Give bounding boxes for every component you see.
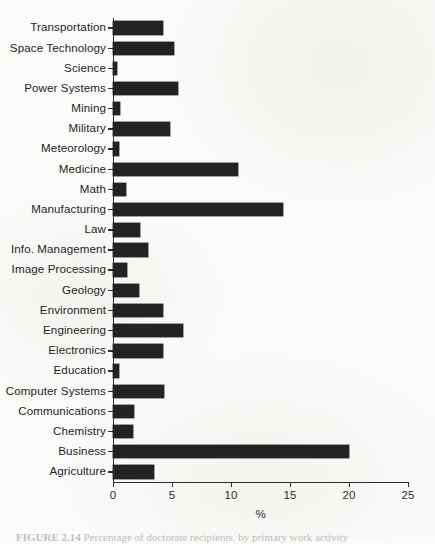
category-label: Chemistry bbox=[53, 424, 106, 438]
bar bbox=[113, 82, 178, 95]
category-label: Mining bbox=[71, 101, 106, 115]
chart-row: Engineering bbox=[113, 321, 408, 341]
x-axis-tick-label: 20 bbox=[342, 489, 355, 501]
category-label: Info. Management bbox=[11, 242, 106, 256]
category-label: Electronics bbox=[48, 343, 106, 357]
bar bbox=[113, 445, 349, 458]
x-axis-tick-label: 25 bbox=[401, 489, 414, 501]
chart-row: Medicine bbox=[113, 159, 408, 179]
chart-row: Electronics bbox=[113, 341, 408, 361]
category-label: Math bbox=[80, 182, 106, 196]
category-label: Education bbox=[54, 363, 106, 377]
bar bbox=[113, 122, 170, 135]
chart-row: Business bbox=[113, 442, 408, 462]
bar bbox=[113, 223, 140, 236]
chart-row: Environment bbox=[113, 300, 408, 320]
category-label: Military bbox=[68, 121, 106, 135]
chart-row: Math bbox=[113, 179, 408, 199]
chart-row: Manufacturing bbox=[113, 200, 408, 220]
chart-row: Science bbox=[113, 58, 408, 78]
category-label: Meteorology bbox=[41, 141, 106, 155]
bar bbox=[113, 42, 174, 55]
bar bbox=[113, 102, 120, 115]
x-axis-title: % bbox=[113, 508, 408, 520]
chart-row: Geology bbox=[113, 280, 408, 300]
bar bbox=[113, 203, 283, 216]
chart-row: Mining bbox=[113, 99, 408, 119]
category-label: Engineering bbox=[43, 323, 106, 337]
x-axis-tick-label: 15 bbox=[283, 489, 296, 501]
chart-row: Military bbox=[113, 119, 408, 139]
bar bbox=[113, 385, 164, 398]
category-label: Power Systems bbox=[24, 81, 106, 95]
category-label: Manufacturing bbox=[31, 202, 106, 216]
x-axis-tick-label: 5 bbox=[169, 489, 176, 501]
category-label: Geology bbox=[62, 283, 106, 297]
chart-row: Image Processing bbox=[113, 260, 408, 280]
chart-row: Chemistry bbox=[113, 421, 408, 441]
category-label: Communications bbox=[18, 404, 106, 418]
plot-area: TransportationSpace TechnologySciencePow… bbox=[113, 18, 408, 482]
bar bbox=[113, 324, 183, 337]
chart-row: Transportation bbox=[113, 18, 408, 38]
bar bbox=[113, 364, 119, 377]
chart-row: Law bbox=[113, 220, 408, 240]
bar bbox=[113, 243, 148, 256]
figure-caption-text: Percentage of doctorate recipients, by p… bbox=[84, 531, 349, 543]
x-axis-line bbox=[113, 482, 408, 483]
bar bbox=[113, 465, 154, 478]
category-label: Agriculture bbox=[49, 464, 106, 478]
x-axis-tick-label: 10 bbox=[224, 489, 237, 501]
bar bbox=[113, 304, 163, 317]
chart-row: Agriculture bbox=[113, 462, 408, 482]
figure-caption-label: FIGURE 2.14 bbox=[16, 531, 81, 543]
chart-row: Computer Systems bbox=[113, 381, 408, 401]
bar bbox=[113, 405, 134, 418]
bar bbox=[113, 183, 126, 196]
chart-row: Meteorology bbox=[113, 139, 408, 159]
x-axis-tick bbox=[408, 482, 409, 487]
chart-row: Power Systems bbox=[113, 79, 408, 99]
x-axis-tick bbox=[290, 482, 291, 487]
category-label: Computer Systems bbox=[6, 384, 106, 398]
category-label: Space Technology bbox=[10, 41, 106, 55]
chart-row: Communications bbox=[113, 401, 408, 421]
bar bbox=[113, 163, 238, 176]
category-label: Science bbox=[64, 61, 106, 75]
category-label: Law bbox=[84, 222, 106, 236]
x-axis-tick bbox=[113, 482, 114, 487]
figure-caption: FIGURE 2.14 Percentage of doctorate reci… bbox=[16, 531, 428, 544]
bar bbox=[113, 425, 133, 438]
x-axis-tick bbox=[349, 482, 350, 487]
bar bbox=[113, 142, 119, 155]
x-axis-tick-label: 0 bbox=[110, 489, 117, 501]
chart-row: Info. Management bbox=[113, 240, 408, 260]
category-label: Environment bbox=[40, 303, 106, 317]
x-axis-tick bbox=[231, 482, 232, 487]
bar bbox=[113, 21, 163, 34]
category-label: Medicine bbox=[59, 162, 106, 176]
bar bbox=[113, 284, 139, 297]
bar bbox=[113, 263, 127, 276]
x-axis-tick bbox=[172, 482, 173, 487]
bar bbox=[113, 62, 117, 75]
bar bbox=[113, 344, 163, 357]
category-label: Business bbox=[58, 444, 106, 458]
chart-row: Space Technology bbox=[113, 38, 408, 58]
chart-row: Education bbox=[113, 361, 408, 381]
category-label: Image Processing bbox=[12, 262, 106, 276]
category-label: Transportation bbox=[30, 20, 106, 34]
